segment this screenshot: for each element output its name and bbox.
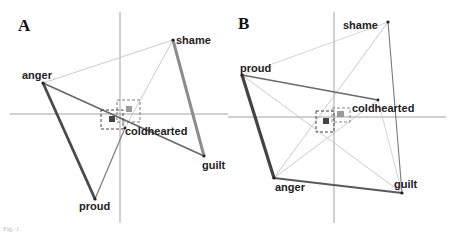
node-label-shame-b: shame (343, 19, 378, 31)
node-label-coldhearted-b: coldhearted (352, 102, 414, 114)
panel-a-letter: A (18, 16, 31, 35)
edge-proud-coldhearted-b (242, 75, 378, 100)
panel-a-centroid-dark (109, 116, 115, 122)
panel-b-letter: B (238, 14, 249, 33)
edge-anger-shame-b (274, 22, 388, 178)
node-label-anger-b: anger (275, 181, 306, 193)
panel-a: A shame anger coldhearted guilt proud (10, 12, 228, 223)
edge-shame-guilt (173, 40, 204, 156)
panel-a-centroid-grey (126, 106, 132, 112)
edge-anger-proud (43, 83, 95, 199)
edge-coldhearted-proud (95, 128, 125, 199)
node-label-proud-b: proud (240, 62, 271, 74)
node-dot-coldhearted-b (377, 99, 380, 102)
node-label-guilt: guilt (202, 159, 226, 171)
panel-b: B shame proud coldhearted anger guilt (228, 12, 446, 223)
node-dot-guilt-b (400, 191, 403, 194)
node-label-proud: proud (79, 200, 110, 212)
edge-proud-guilt (242, 75, 402, 193)
panel-b-centroid-grey (337, 111, 344, 117)
node-dot-guilt (202, 154, 205, 157)
node-label-coldhearted: coldhearted (125, 125, 187, 137)
node-dot-anger (41, 81, 44, 84)
node-label-anger: anger (22, 69, 53, 81)
node-dot-anger-b (272, 176, 275, 179)
node-dot-shame (171, 38, 174, 41)
node-dot-shame-b (386, 20, 389, 23)
panel-b-centroid-dark (323, 118, 329, 124)
node-label-shame: shame (176, 34, 211, 46)
figure-canvas: A shame anger coldhearted guilt proud B (0, 0, 456, 233)
edge-proud-anger-b (242, 75, 274, 178)
node-label-guilt-b: guilt (394, 178, 418, 190)
figure-caption: Fig. 1 (3, 225, 20, 233)
